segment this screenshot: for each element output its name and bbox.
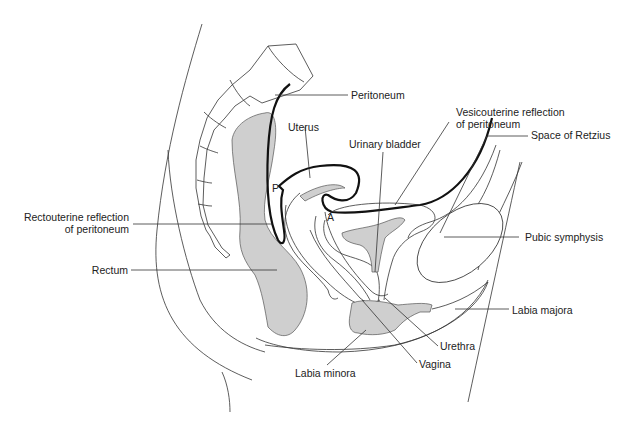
label-rectouterine-1: Rectouterine reflection bbox=[24, 211, 129, 223]
label-pubic-symphysis: Pubic symphysis bbox=[525, 231, 603, 243]
label-rectum: Rectum bbox=[92, 264, 128, 276]
marker-p: P bbox=[272, 182, 279, 194]
label-vagina: Vagina bbox=[419, 358, 451, 370]
label-urinary-bladder: Urinary bladder bbox=[349, 138, 421, 150]
label-space-of-retzius: Space of Retzius bbox=[531, 129, 610, 141]
marker-a: A bbox=[327, 211, 334, 223]
label-uterus: Uterus bbox=[288, 121, 319, 133]
label-labia-minora: Labia minora bbox=[295, 367, 356, 379]
label-urethra: Urethra bbox=[440, 340, 475, 352]
pelvis-sagittal-diagram: Peritoneum Uterus Urinary bladder Vesico… bbox=[0, 0, 626, 427]
label-vesicouterine-2: of peritoneum bbox=[456, 118, 520, 130]
label-vesicouterine-1: Vesicouterine reflection bbox=[456, 106, 565, 118]
label-labia-majora: Labia majora bbox=[512, 304, 573, 316]
label-rectouterine-2: of peritoneum bbox=[65, 223, 129, 235]
label-peritoneum: Peritoneum bbox=[351, 89, 405, 101]
